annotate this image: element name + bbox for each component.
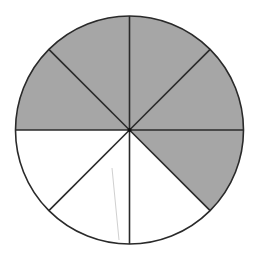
center-point [128,128,132,132]
fraction-circle-diagram [0,0,256,259]
pie-circle [0,0,256,259]
